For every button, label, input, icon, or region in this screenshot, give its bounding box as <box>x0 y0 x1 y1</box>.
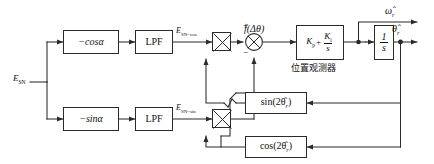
wire-cos-to-mult-bottom <box>206 136 221 147</box>
sin-feedback-label: sin(2θ̂r) <box>261 97 292 109</box>
block-neg-cos-alpha-label: −cosα <box>78 37 103 47</box>
multiply-icon <box>213 33 232 52</box>
diagram-wires <box>0 0 434 164</box>
wire-sin-hop-a <box>232 99 236 103</box>
pi-plus-sign: + <box>316 38 321 47</box>
label-input-esn: ESN <box>13 74 26 85</box>
block-lpf-top-label: LPF <box>145 37 162 47</box>
integrator-fraction: 1 s <box>380 32 389 53</box>
multiplier-top[interactable] <box>212 32 231 51</box>
block-cos-2theta[interactable]: cos(2θ̂r) <box>245 136 307 158</box>
block-neg-cos-alpha[interactable]: −cosα <box>63 30 119 54</box>
label-theta-hat: θ̂r <box>392 24 399 36</box>
block-lpf-bottom[interactable]: LPF <box>135 107 173 131</box>
observer-caption: 位置观测器 <box>291 64 336 73</box>
integrator-numerator: 1 <box>380 32 389 42</box>
block-lpf-top[interactable]: LPF <box>135 30 173 54</box>
label-esn-sin: ESN−sin <box>176 104 196 115</box>
sum-minus-sign: − <box>243 48 248 57</box>
block-pi-controller[interactable]: Kp + Ki s <box>296 25 344 60</box>
label-esn-cos: ESN−cos <box>176 27 197 38</box>
multiply-icon <box>213 110 232 129</box>
block-lpf-bottom-label: LPF <box>145 114 162 124</box>
block-neg-sin-alpha[interactable]: −sinα <box>63 107 119 131</box>
integrator-denominator: s <box>380 42 388 53</box>
block-diagram-canvas: −cosα LPF −sinα LPF Kp + <box>0 0 434 164</box>
pi-kp-label: Kp <box>306 37 315 48</box>
pi-ki-label: Ki <box>322 32 334 43</box>
pi-ki-over-s: Ki s <box>322 32 334 53</box>
block-sin-2theta[interactable]: sin(2θ̂r) <box>245 92 307 114</box>
wire-cos-out-1 <box>221 136 245 147</box>
block-neg-sin-alpha-label: −sinα <box>79 114 103 124</box>
wire-sin-hop-c <box>224 103 228 107</box>
block-integrator[interactable]: 1 s <box>374 25 394 60</box>
sum-plus-sign: + <box>243 21 248 30</box>
multiplier-bottom[interactable] <box>212 109 231 128</box>
wire-sin-to-mult-top <box>206 59 224 103</box>
cos-feedback-label: cos(2θ̂r) <box>260 141 292 153</box>
label-omega-hat: ω̂r <box>385 6 394 18</box>
pi-den-label: s <box>324 43 332 53</box>
